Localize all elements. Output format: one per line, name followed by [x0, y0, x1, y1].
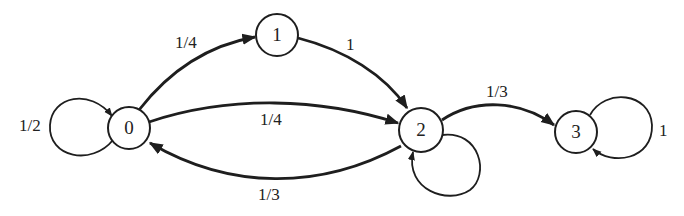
edge-label-2-0: 1/3 [258, 185, 280, 204]
node-0: 0 [108, 107, 150, 149]
edge-0-to-0: 1/2 [19, 99, 113, 156]
node-1: 1 [256, 14, 298, 56]
node-2: 2 [399, 108, 443, 152]
node-label-0: 0 [124, 117, 134, 138]
edge-3-to-3: 1 [590, 97, 668, 158]
arrow-2-3-icon [442, 105, 554, 125]
node-label-2: 2 [416, 119, 426, 140]
edge-2-to-3: 1/3 [442, 82, 554, 125]
edge-label-1-2: 1 [346, 35, 355, 54]
edge-2-to-0: 1/3 [150, 143, 401, 204]
edge-label-2-3: 1/3 [486, 82, 508, 101]
arrow-0-1-icon [139, 37, 255, 110]
edge-label-0-1: 1/4 [175, 33, 197, 52]
edge-label-3-3: 1 [659, 121, 668, 140]
edge-0-to-1: 1/4 [139, 33, 255, 110]
edge-1-to-2: 1 [298, 35, 407, 108]
self-loop-3-icon [590, 97, 652, 158]
state-diagram: 1/2 1/4 1/4 1 1/3 1/3 1 0 1 [0, 0, 684, 216]
node-label-3: 3 [571, 121, 581, 142]
edge-label-0-2: 1/4 [260, 110, 282, 129]
node-3: 3 [555, 111, 597, 153]
arrow-2-0-icon [150, 143, 401, 179]
self-loop-0-icon [50, 99, 113, 156]
node-label-1: 1 [272, 24, 282, 45]
edge-label-0-0: 1/2 [19, 116, 41, 135]
edge-0-to-2: 1/4 [149, 103, 398, 129]
